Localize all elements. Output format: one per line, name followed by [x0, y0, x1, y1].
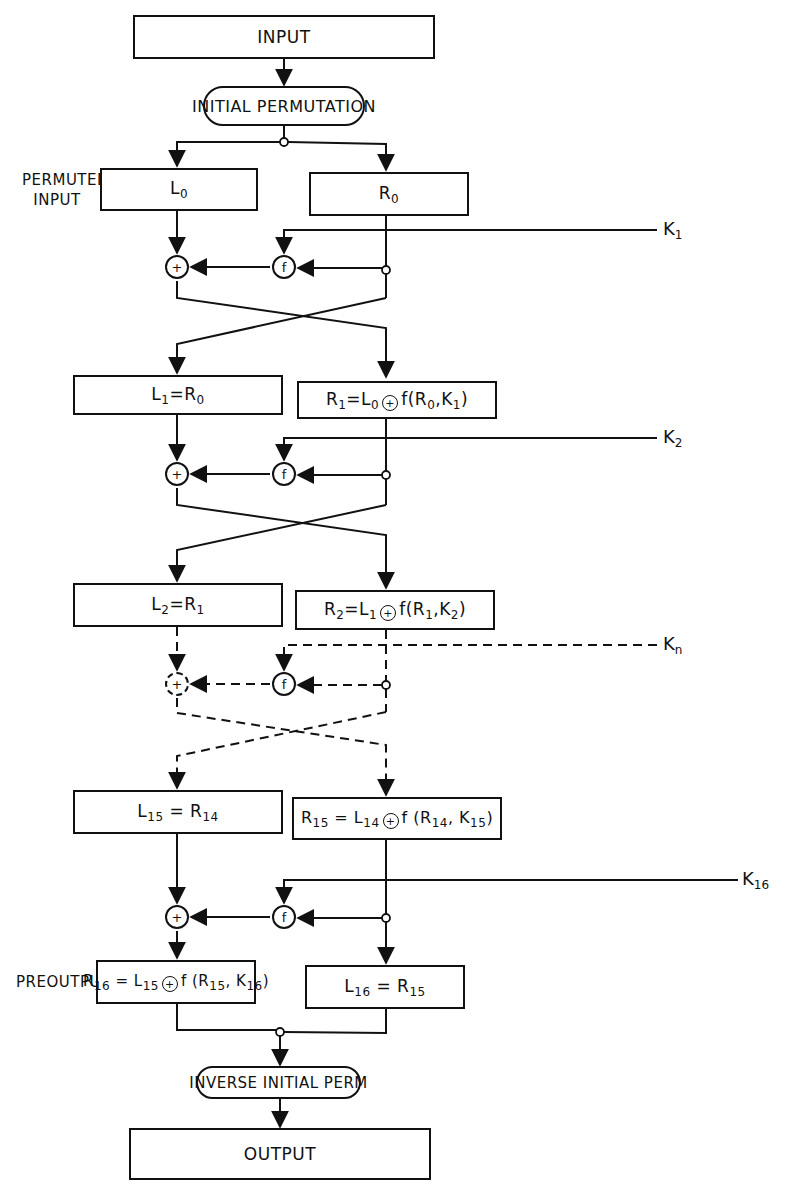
- xor-operator-round2: +: [165, 462, 189, 486]
- l0-label: L0: [170, 178, 188, 201]
- des-feistel-diagram: INPUT INITIAL PERMUTATION PERMUTED INPUT…: [0, 0, 796, 1200]
- r1-label: R1=L0+f(R0,K1): [326, 389, 468, 412]
- permuted-label-line1: PERMUTED: [22, 170, 92, 190]
- r2-box: R2=L1+f(R1,K2): [295, 590, 495, 630]
- xor-inline-icon: +: [383, 813, 399, 829]
- l16-label: L16 = R15: [344, 976, 425, 999]
- l0-box: L0: [100, 168, 258, 211]
- r2-label: R2=L1+f(R1,K2): [324, 599, 466, 622]
- l2-box: L2=R1: [73, 583, 283, 627]
- r16-box: R16 = L15+f (R15, K16): [96, 960, 256, 1004]
- xor-operator-round1: +: [165, 255, 189, 279]
- f-function-round-n: f: [272, 672, 296, 696]
- r16-label: R16 = L15+f (R15, K16): [83, 972, 269, 993]
- key-kn-label: Kn: [663, 633, 682, 657]
- output-box: OUTPUT: [129, 1128, 431, 1180]
- l1-box: L1=R0: [73, 375, 283, 415]
- r0-label: R0: [379, 183, 399, 206]
- l2-label: L2=R1: [151, 594, 204, 617]
- l1-label: L1=R0: [151, 384, 204, 407]
- xor-operator-round-n: +: [165, 672, 189, 696]
- permuted-label-line2: INPUT: [22, 190, 92, 210]
- key-k1-label: K1: [663, 218, 682, 242]
- xor-inline-icon: +: [162, 976, 178, 992]
- initial-permutation-label: INITIAL PERMUTATION: [192, 97, 376, 116]
- f-function-round1: f: [272, 255, 296, 279]
- l16-box: L16 = R15: [305, 965, 465, 1009]
- input-box: INPUT: [133, 15, 435, 59]
- inverse-permutation-label: INVERSE INITIAL PERM: [189, 1074, 368, 1092]
- input-label: INPUT: [257, 27, 310, 47]
- r15-label: R15 = L14+f (R14, K15): [301, 808, 493, 830]
- xor-inline-icon: +: [382, 395, 398, 411]
- xor-operator-round16: +: [165, 905, 189, 929]
- xor-inline-icon: +: [380, 605, 396, 621]
- r15-box: R15 = L14+f (R14, K15): [292, 797, 502, 840]
- l15-box: L15 = R14: [73, 790, 283, 834]
- output-label: OUTPUT: [244, 1144, 316, 1164]
- initial-permutation-box: INITIAL PERMUTATION: [203, 86, 365, 126]
- key-k16-label: K16: [742, 868, 769, 892]
- permuted-input-label: PERMUTED INPUT: [22, 170, 92, 210]
- f-function-round16: f: [272, 905, 296, 929]
- l15-label: L15 = R14: [137, 801, 218, 824]
- r0-box: R0: [309, 172, 469, 216]
- f-function-round2: f: [272, 462, 296, 486]
- inverse-initial-permutation-box: INVERSE INITIAL PERM: [196, 1066, 361, 1099]
- key-k2-label: K2: [663, 426, 682, 450]
- r1-box: R1=L0+f(R0,K1): [297, 381, 497, 419]
